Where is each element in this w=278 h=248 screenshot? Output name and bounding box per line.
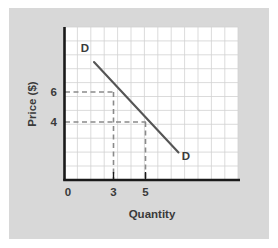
y-axis-title: Price ($) xyxy=(26,81,38,127)
y-tick-label-4: 4 xyxy=(51,116,58,128)
y-tick-label-6: 6 xyxy=(51,86,57,98)
x-tick-label-0: 0 xyxy=(65,186,71,198)
plot-area-background xyxy=(64,27,238,180)
curve-label-upper: D xyxy=(81,42,89,54)
x-tick-label-5: 5 xyxy=(142,186,149,198)
figure-root: 0 3 5 6 4 Price ($) Quantity D D xyxy=(0,0,278,248)
x-axis-title: Quantity xyxy=(129,208,176,220)
x-tick-label-3: 3 xyxy=(110,186,116,198)
demand-curve-chart: 0 3 5 6 4 Price ($) Quantity D D xyxy=(0,0,278,248)
curve-label-lower: D xyxy=(182,150,190,162)
